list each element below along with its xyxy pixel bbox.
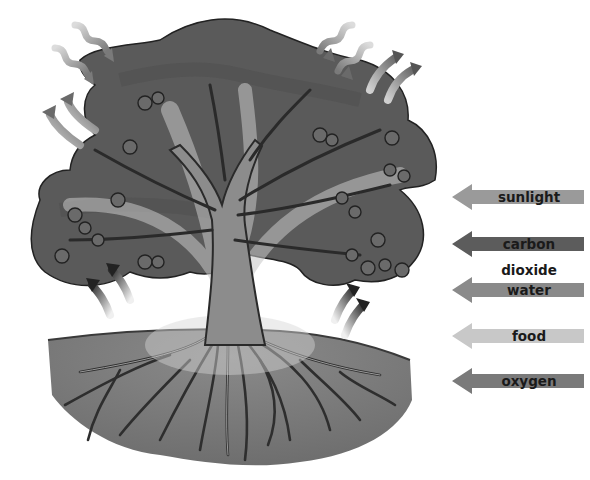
legend-item-food: food (452, 323, 584, 349)
legend-label: carbon dioxide (474, 231, 584, 257)
legend-label: sunlight (474, 184, 584, 210)
legend-item-oxygen: oxygen (452, 368, 584, 394)
legend-label: oxygen (474, 368, 584, 394)
co2-arrows-right (335, 290, 363, 335)
legend-item-carbon-dioxide: carbon dioxide (452, 231, 584, 257)
legend-item-water: water (452, 277, 584, 303)
legend-item-sunlight: sunlight (452, 184, 584, 210)
legend-label: food (474, 323, 584, 349)
tree-diagram: sunlight carbon dioxide water food oxyge… (0, 0, 590, 480)
legend-label: water (474, 277, 584, 303)
